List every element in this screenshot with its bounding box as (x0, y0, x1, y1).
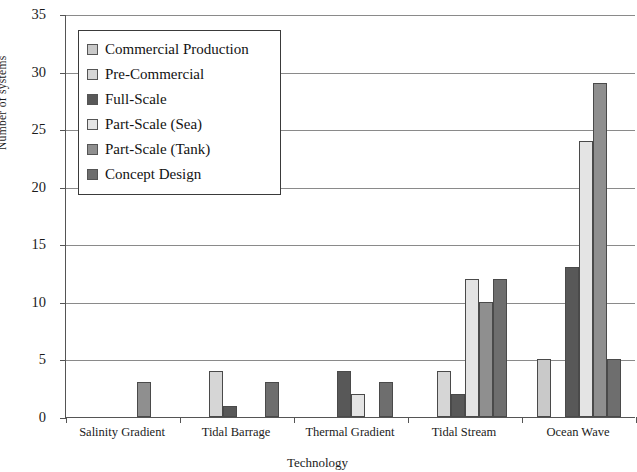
y-axis-tick-label: 10 (0, 294, 46, 311)
bar (537, 359, 551, 417)
bar (593, 83, 607, 417)
chart-legend: Commercial ProductionPre-CommercialFull-… (78, 30, 281, 195)
legend-item-label: Pre-Commercial (105, 67, 204, 82)
bar (493, 279, 507, 417)
bar (379, 382, 393, 417)
x-axis-tick (294, 417, 295, 423)
x-axis-tick-label: Thermal Gradient (293, 425, 407, 440)
legend-swatch-icon (87, 119, 98, 130)
legend-item: Commercial Production (87, 37, 272, 62)
y-axis-tick-label: 20 (0, 179, 46, 196)
y-axis-tick-label: 5 (0, 351, 46, 368)
legend-item-label: Commercial Production (105, 42, 249, 57)
y-axis-tick-labels: 05101520253035 (0, 0, 60, 472)
bar-group-bars (294, 15, 408, 417)
y-axis-title: Number of systems (0, 0, 8, 150)
x-axis-tick (408, 417, 409, 423)
legend-item-label: Part-Scale (Sea) (105, 117, 202, 132)
legend-swatch-icon (87, 94, 98, 105)
legend-item-label: Part-Scale (Tank) (105, 142, 210, 157)
legend-item: Pre-Commercial (87, 62, 272, 87)
bar (607, 359, 621, 417)
bar (579, 141, 593, 417)
bar-group-bars (408, 15, 522, 417)
bar (137, 382, 151, 417)
legend-item-label: Full-Scale (105, 92, 167, 107)
legend-swatch-icon (87, 69, 98, 80)
bar (465, 279, 479, 417)
x-axis-tick-label: Salinity Gradient (65, 425, 179, 440)
bar-group (522, 15, 636, 417)
legend-swatch-icon (87, 169, 98, 180)
bar (437, 371, 451, 417)
bar-group (408, 15, 522, 417)
legend-item: Part-Scale (Tank) (87, 137, 272, 162)
legend-swatch-icon (87, 144, 98, 155)
legend-item: Part-Scale (Sea) (87, 112, 272, 137)
bar-group (294, 15, 408, 417)
bar (337, 371, 351, 417)
bar (209, 371, 223, 417)
legend-item: Concept Design (87, 162, 272, 187)
bar (565, 267, 579, 417)
bar (479, 302, 493, 417)
x-axis-tick-label: Tidal Stream (407, 425, 521, 440)
x-axis-tick (180, 417, 181, 423)
legend-item: Full-Scale (87, 87, 272, 112)
bar (451, 394, 465, 417)
x-axis-tick (66, 417, 67, 423)
legend-swatch-icon (87, 44, 98, 55)
x-axis-title: Technology (0, 455, 635, 471)
x-axis-tick-label: Ocean Wave (521, 425, 635, 440)
bar (223, 406, 237, 418)
y-axis-tick-label: 15 (0, 236, 46, 253)
legend-item-label: Concept Design (105, 167, 201, 182)
bar (265, 382, 279, 417)
y-axis-tick-label: 0 (0, 409, 46, 426)
bar-group-bars (522, 15, 636, 417)
bar (351, 394, 365, 417)
x-axis-tick (522, 417, 523, 423)
x-axis-tick-label: Tidal Barrage (179, 425, 293, 440)
